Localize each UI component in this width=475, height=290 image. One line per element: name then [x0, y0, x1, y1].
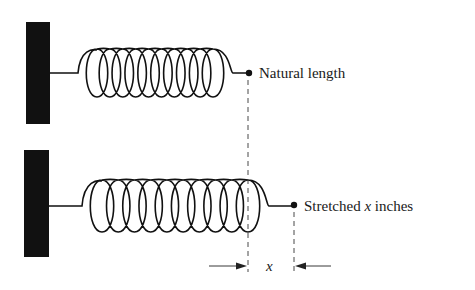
dimension-label: x — [265, 258, 273, 274]
spring-icon — [49, 179, 294, 232]
stretched-label: Stretched x inches — [304, 198, 413, 214]
arrow-left-icon — [295, 263, 306, 270]
natural-length-label: Natural length — [259, 65, 346, 81]
natural-length-spring-group: Natural length — [26, 22, 346, 124]
spring-diagram: Natural length Stretched x inches x — [0, 0, 475, 290]
endpoint-dot-icon — [246, 70, 252, 76]
reference-lines — [248, 80, 294, 272]
dimension-x: x — [209, 258, 331, 274]
wall-icon — [24, 150, 49, 257]
arrow-right-icon — [236, 263, 247, 270]
endpoint-dot-icon — [291, 202, 297, 208]
spring-icon — [50, 48, 249, 97]
stretched-spring-group: Stretched x inches — [24, 150, 413, 257]
wall-icon — [26, 22, 50, 124]
